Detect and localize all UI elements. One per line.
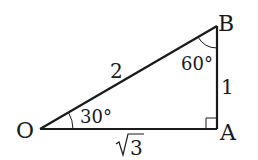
angle-label-B: 60°: [181, 53, 213, 74]
angle-label-O: 30°: [80, 106, 112, 127]
side-label-OA: 3: [116, 134, 144, 160]
angle-arc-B: [198, 37, 217, 48]
angle-arc-O: [69, 113, 74, 130]
side-label-AB: 1: [221, 75, 234, 99]
side-OB: [40, 26, 217, 129]
right-angle-marker: [206, 118, 217, 129]
vertex-label-B: B: [218, 11, 234, 36]
vertex-label-A: A: [219, 120, 237, 145]
side-label-OA-value: 3: [130, 136, 143, 160]
triangle-diagram: O A B 2 1 3 30° 60°: [0, 0, 258, 160]
vertex-label-O: O: [16, 118, 34, 143]
side-label-OB: 2: [110, 59, 123, 83]
